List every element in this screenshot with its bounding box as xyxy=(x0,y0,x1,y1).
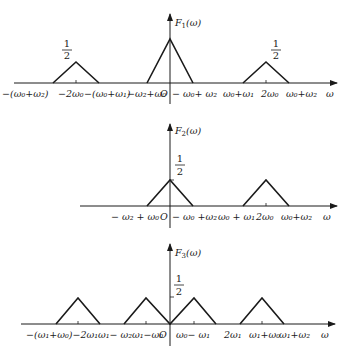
half-den-f3: 2 xyxy=(176,286,182,297)
tick-label: ω₀+ω₁ xyxy=(223,88,254,99)
tick-label: − ω₂ + ω₀ xyxy=(111,211,159,222)
xlabel-f1: ω xyxy=(326,88,334,99)
tick-label: − ω₀ +ω₂ xyxy=(172,211,217,222)
triangle-f3-1 xyxy=(56,298,100,324)
origin-label: O xyxy=(159,329,167,340)
ylabel-f1: F1(ω) xyxy=(174,17,202,30)
tick-label: − ω₀+ ω₂ xyxy=(172,88,217,99)
half-num-f2: 1 xyxy=(177,153,183,164)
tick-label: −(ω₁+ω₀)−2ω₁ xyxy=(26,329,98,340)
half-den-f2: 2 xyxy=(177,166,183,177)
half-num-f3: 1 xyxy=(176,273,182,284)
half-den-f1-left: 2 xyxy=(64,50,70,61)
panel-f1: 1 2 1 2 F1(ω) −(ω₀+ω₂) −2ω₀ −(ω₀+ω₁) −ω₂… xyxy=(2,14,337,104)
triangle-f1-left xyxy=(53,62,99,83)
triangle-f1-right xyxy=(243,62,289,83)
triangle-f3-4 xyxy=(240,298,284,324)
tick-label: 2ω₀ xyxy=(260,88,279,99)
triangle-f2-right xyxy=(243,180,289,206)
tick-label: ω₀+ω₂ xyxy=(281,211,312,222)
ylabel-f2: F2(ω) xyxy=(174,125,202,138)
tick-label: ω₀− ω₁ xyxy=(176,329,210,340)
ylabel-f3: F3(ω) xyxy=(174,247,202,260)
panel-f3: 1 2 F3(ω) −(ω₁+ω₀)−2ω₁ ω₁− ω₂ ω₁−ω₀ O ω₀… xyxy=(21,244,335,346)
tick-label: 2ω₁ xyxy=(223,329,242,340)
tick-label: −(ω₀+ω₂) xyxy=(2,88,49,99)
origin-label: O xyxy=(160,88,168,99)
tick-label: 2ω₀ xyxy=(255,211,274,222)
origin-label: O xyxy=(160,211,168,222)
tick-label: ω₀ + ω₁ xyxy=(218,211,255,222)
tick-label: −2ω₀ xyxy=(58,88,84,99)
tick-label: −(ω₀+ω₁) xyxy=(84,88,131,99)
spectrum-diagram: 1 2 1 2 F1(ω) −(ω₀+ω₂) −2ω₀ −(ω₀+ω₁) −ω₂… xyxy=(0,0,347,356)
half-num-f1-left: 1 xyxy=(64,38,70,49)
xlabel-f3: ω xyxy=(321,329,329,340)
xlabel-f2: ω xyxy=(323,211,331,222)
tick-label: ω₁+ω₂ xyxy=(279,329,310,340)
panel-f2: 1 2 F2(ω) − ω₂ + ω₀ O − ω₀ +ω₂ ω₀ + ω₁ 2… xyxy=(80,124,337,228)
tick-label: ω₁+ω₀ xyxy=(249,329,280,340)
tick-label: ω₀+ω₂ xyxy=(286,88,317,99)
half-num-f1-right: 1 xyxy=(273,38,279,49)
tick-label: ω₁− ω₂ xyxy=(98,329,132,340)
half-den-f1-right: 2 xyxy=(273,50,279,61)
